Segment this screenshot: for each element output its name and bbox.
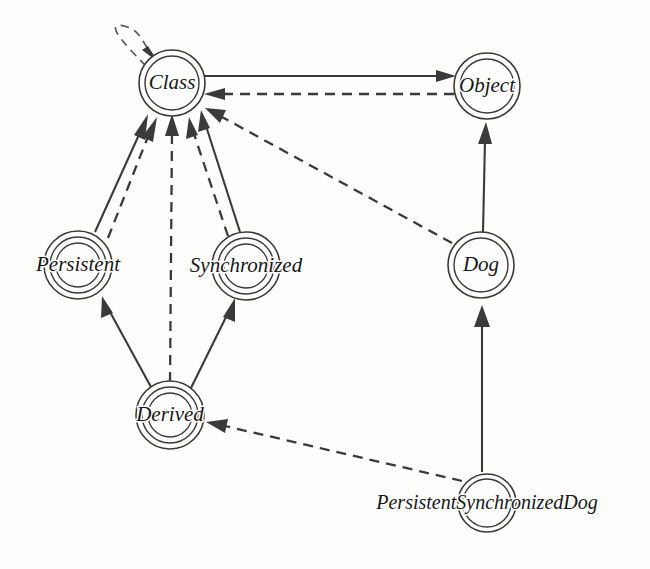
node-derived[interactable]: Derived [135, 381, 204, 449]
edge-synchronized-to-class-dashed-path [194, 134, 228, 236]
edge-dog-to-class-dashed-path [222, 117, 452, 243]
edge-class-to-object[interactable] [205, 70, 456, 82]
edge-class-to-object-arrowhead [436, 70, 456, 82]
edge-derived-to-class-dashed-arrowhead [165, 114, 179, 136]
edge-psd-to-derived-dashed[interactable] [206, 419, 462, 481]
edge-psd-to-dog-solid-arrowhead [474, 305, 490, 327]
node-synchronized[interactable]: Synchronized [190, 232, 303, 300]
edge-psd-to-derived-dashed-arrowhead [206, 419, 228, 433]
node-dog[interactable]: Dog [448, 232, 514, 298]
edge-persistent-to-class-solid[interactable] [95, 114, 148, 232]
node-object[interactable]: Object [454, 53, 520, 119]
edge-derived-to-persistent-solid[interactable] [101, 296, 151, 387]
edge-synchronized-to-class-solid[interactable] [198, 110, 240, 232]
edge-dog-to-object-solid[interactable] [478, 122, 492, 232]
edge-synchronized-to-class-solid-path [206, 126, 240, 232]
edge-derived-to-persistent-solid-path [110, 312, 151, 387]
edge-persistent-to-class-dashed-path [108, 134, 149, 238]
node-synchronized-label: Synchronized [190, 253, 303, 277]
node-class-label: Class [149, 70, 196, 94]
edge-object-to-class-arrowhead [204, 88, 225, 100]
edge-derived-to-synchronized-solid[interactable] [191, 298, 235, 388]
edge-dog-to-object-solid-arrowhead [478, 122, 492, 144]
graph-svg: Class Object Persistent Synchronized [0, 0, 650, 569]
edge-persistent-to-class-dashed[interactable] [108, 117, 157, 238]
edge-dog-to-class-dashed-arrowhead [205, 108, 226, 123]
node-derived-label: Derived [135, 402, 204, 426]
edge-synchronized-to-class-dashed-arrowhead [186, 117, 198, 139]
node-psd-label: PersistentSynchronizedDog [375, 491, 597, 514]
node-persistent-label: Persistent [35, 252, 121, 276]
edge-dog-to-class-dashed[interactable] [205, 108, 452, 243]
edge-object-to-class[interactable] [204, 88, 454, 100]
node-persistent[interactable]: Persistent [35, 231, 121, 299]
node-layer: Class Object Persistent Synchronized [35, 50, 598, 532]
node-persistentsynchronizeddog[interactable]: PersistentSynchronizedDog [375, 474, 597, 532]
edge-class-self-loop-path [115, 25, 152, 66]
edge-dog-to-object-solid-path [483, 140, 485, 232]
edge-persistent-to-class-solid-path [95, 128, 142, 232]
edge-psd-to-derived-dashed-path [225, 426, 462, 481]
node-dog-label: Dog [462, 252, 499, 276]
diagram-canvas: Class Object Persistent Synchronized [0, 0, 650, 569]
edge-derived-to-synchronized-solid-path [191, 315, 227, 388]
edge-synchronized-to-class-solid-arrowhead [198, 110, 210, 132]
node-class[interactable]: Class [139, 50, 205, 116]
edge-psd-to-dog-solid[interactable] [474, 305, 490, 472]
edge-derived-to-class-dashed[interactable] [165, 114, 179, 382]
edge-derived-to-class-dashed-path [170, 132, 172, 382]
node-object-label: Object [459, 73, 516, 97]
